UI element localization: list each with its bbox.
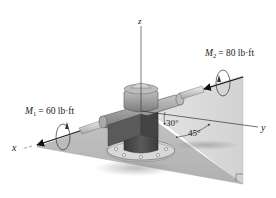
m1-label: M1= 60 lb·ft (24, 106, 74, 117)
x-axis-dash (22, 146, 32, 149)
moment-diagram: x z y 30° 45° M1= 60 lb·ft M2= 80 lb·ft (0, 0, 276, 198)
housing-left-end (99, 116, 107, 128)
m2-label: M2= 80 lb·ft (204, 48, 254, 59)
m2-curl-arrowhead (217, 75, 221, 82)
angle-45-label: 45° (188, 128, 201, 138)
angle-30-label: 30° (166, 118, 179, 128)
z-axis-label: z (137, 16, 142, 26)
m1-curl-arrowhead (65, 122, 69, 129)
y-axis-label: y (260, 122, 266, 133)
x-axis-label: x (11, 142, 17, 153)
base-shadow (95, 160, 175, 176)
shadow (170, 140, 240, 150)
